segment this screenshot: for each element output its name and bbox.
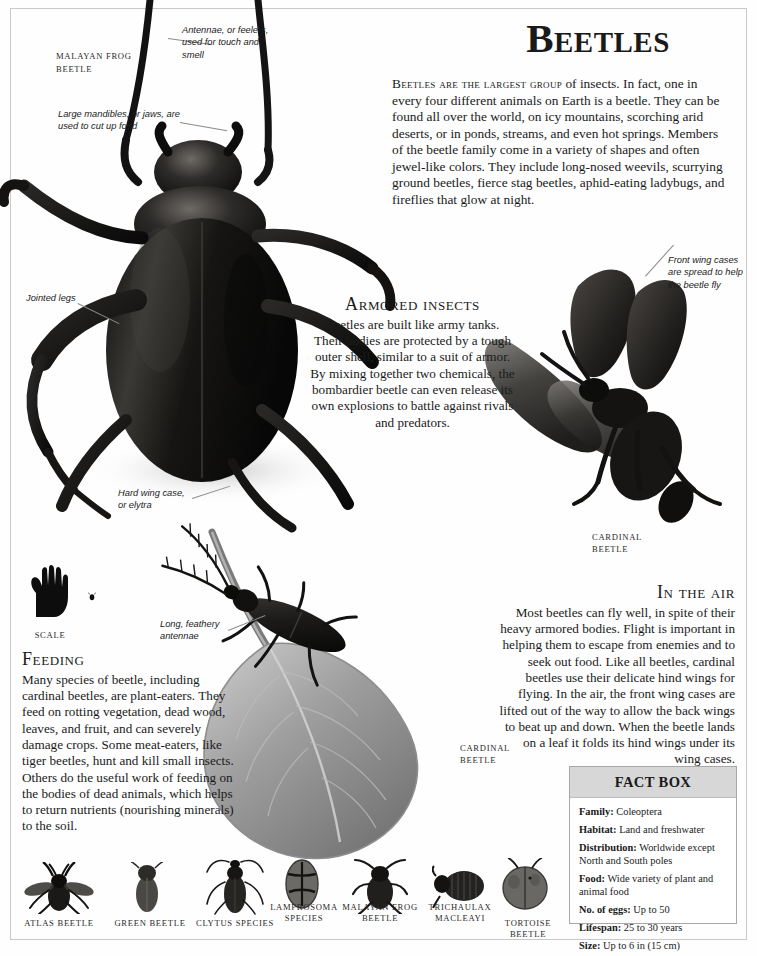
specimen-label-lamprosoma-species: LAMPROSOMA SPECIES	[264, 902, 344, 923]
fact-box-title: FACT BOX	[615, 774, 691, 791]
section-heading-armored-insects: Armored insects	[310, 295, 515, 315]
fact-value-no-of-eggs: Up to 50	[633, 904, 669, 915]
fact-value-size: Up to 6 in (15 cm)	[603, 940, 680, 951]
scale-caption: SCALE	[20, 630, 80, 641]
scale-beetle-silhouette-icon	[88, 592, 96, 601]
callout-antennae: Antennae, or feelers, used for touch and…	[182, 24, 278, 61]
callout-long-feathery-antennae: Long, feathery antennae	[160, 618, 232, 643]
section-armored-insects: Armored insects Beetles are built like a…	[310, 295, 515, 431]
section-heading-in-the-air: In the air	[497, 583, 735, 603]
specimen-label-green-beetle: GREEN BEETLE	[108, 918, 192, 929]
page-root: SCALE Beetles Beetles are the largest gr…	[0, 0, 757, 956]
fact-label-no-of-eggs: No. of eggs:	[579, 904, 631, 915]
intro-paragraph: Beetles are the largest group of insects…	[392, 76, 730, 208]
fact-value-lifespan: 25 to 30 years	[624, 922, 683, 933]
label-cardinal-beetle-leaf: CARDINAL BEETLE	[460, 742, 540, 767]
specimen-atlas-beetle-image	[22, 862, 96, 914]
fact-row-size: Size: Up to 6 in (15 cm)	[579, 939, 727, 952]
fact-row-no-of-eggs: No. of eggs: Up to 50	[579, 903, 727, 916]
specimen-label-malayan-frog-beetle: MALAYAN FROG BEETLE	[338, 902, 422, 923]
fact-row-food: Food: Wide variety of plant and animal f…	[579, 872, 727, 899]
section-feeding: Feeding Many species of beetle, includin…	[22, 650, 234, 835]
section-in-the-air: In the air Most beetles can fly well, in…	[497, 583, 735, 768]
specimen-clytus-species-image	[205, 858, 265, 916]
intro-rest: of insects. In fact, one in every four d…	[392, 76, 724, 207]
fact-row-family: Family: Coleoptera	[579, 805, 727, 818]
specimen-label-tortoise-beetle: TORTOISE BEETLE	[486, 918, 570, 939]
fact-label-habitat: Habitat:	[579, 824, 617, 835]
fact-row-distribution: Distribution: Worldwide except North and…	[579, 841, 727, 868]
scale-hand-icon	[28, 565, 72, 617]
section-heading-feeding: Feeding	[22, 650, 234, 670]
fact-value-family: Coleoptera	[616, 806, 662, 817]
section-body-armored-insects: Beetles are built like army tanks. Their…	[310, 317, 515, 431]
intro-lead: Beetles are the largest group	[392, 76, 562, 91]
fact-label-family: Family:	[579, 806, 614, 817]
specimen-tortoise-beetle-image	[498, 858, 552, 912]
callout-front-wing-cases: Front wing cases are spread to help the …	[668, 254, 746, 291]
fact-box-rows: Family: Coleoptera Habitat: Land and fre…	[570, 798, 736, 956]
section-body-feeding: Many species of beetle, including cardin…	[22, 672, 234, 835]
callout-mandibles: Large mandibles, or jaws, are used to cu…	[58, 108, 188, 133]
fact-label-food: Food:	[579, 873, 605, 884]
label-malayan-frog-beetle-main: MALAYAN FROG BEETLE	[56, 50, 162, 76]
fact-value-habitat: Land and freshwater	[619, 824, 704, 835]
fact-row-lifespan: Lifespan: 25 to 30 years	[579, 921, 727, 934]
malayan-frog-beetle-photo	[0, 0, 400, 545]
fact-label-distribution: Distribution:	[579, 842, 637, 853]
fact-label-size: Size:	[579, 940, 600, 951]
callout-jointed-legs: Jointed legs	[26, 292, 98, 304]
callout-hard-wing-case: Hard wing case, or elytra	[118, 487, 194, 512]
specimen-label-atlas-beetle: ATLAS BEETLE	[14, 918, 104, 929]
fact-box: FACT BOX Family: Coleoptera Habitat: Lan…	[569, 766, 737, 924]
fact-box-header: FACT BOX	[570, 767, 736, 798]
fact-label-lifespan: Lifespan:	[579, 922, 621, 933]
fact-row-habitat: Habitat: Land and freshwater	[579, 823, 727, 836]
page-title: Beetles	[463, 16, 733, 60]
specimen-green-beetle-image	[125, 862, 169, 914]
label-cardinal-beetle-flying: CARDINAL BEETLE	[592, 531, 672, 556]
